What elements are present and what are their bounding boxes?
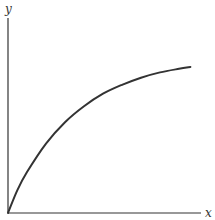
- x-axis-label: x: [205, 206, 212, 220]
- chart: y x: [0, 0, 215, 220]
- series-line-curve: [8, 67, 190, 213]
- y-axis-label: y: [4, 2, 12, 16]
- series-layer: [8, 67, 190, 213]
